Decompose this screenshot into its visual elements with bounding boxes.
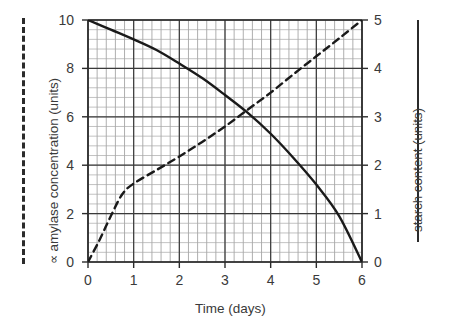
gridlines-major [88,20,362,262]
plot-area [0,0,461,330]
chart-figure: ∝ amylase concentration (units) starch c… [0,0,461,330]
